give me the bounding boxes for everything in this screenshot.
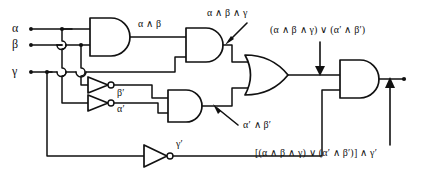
signal-label-not-alpha: α′ <box>117 104 125 114</box>
annotation-arrow-or-output <box>315 42 325 76</box>
wire-beta-to-and-ab <box>57 45 90 50</box>
annotation-label-or-output: (α ∧ β ∧ γ) ∨ (α′ ∧ β′) <box>270 25 365 35</box>
not-gate-beta <box>88 77 114 93</box>
logic-circuit-diagram: α β γ α ∧ β β′ α′ γ′ α ∧ β ∧ γ α′ ∧ β′ (… <box>0 0 423 172</box>
annotation-label-and-abg: α ∧ β ∧ γ <box>207 8 248 18</box>
annotation-arrow-and-abg <box>225 23 247 45</box>
input-label-gamma: γ <box>12 65 18 77</box>
annotation-arrow-and-nanb <box>213 104 238 125</box>
annotation-arrow-final-output <box>385 77 395 145</box>
wire-beta-branch-down <box>81 45 88 85</box>
and-gate-ab <box>90 18 130 56</box>
wire-alpha-branch-down <box>62 29 88 103</box>
signal-label-not-beta: β′ <box>117 88 125 98</box>
annotation-label-final-output: [(α ∧ β ∧ γ) ∨ (α′ ∧ β′)] ∧ γ′ <box>255 148 377 158</box>
signal-label-and-ab: α ∧ β <box>138 19 161 29</box>
signal-label-not-gamma: γ′ <box>176 139 183 149</box>
wire-and-abg-output <box>223 45 248 62</box>
wire-final-output <box>379 77 406 81</box>
wire-gamma-main <box>47 57 186 77</box>
not-gate-gamma <box>144 145 173 167</box>
or-gate <box>245 55 288 95</box>
and-gate-final <box>340 60 379 98</box>
and-gate-abg <box>186 28 223 62</box>
input-label-beta: β <box>12 38 18 50</box>
input-label-alpha: α <box>12 22 19 34</box>
junction-dots <box>45 27 83 74</box>
and-gate-not-a-not-b <box>168 90 202 122</box>
wire-and-nanb-output <box>202 88 248 106</box>
not-gate-alpha <box>88 95 114 111</box>
annotation-label-and-not-a-not-b: α′ ∧ β′ <box>243 120 271 130</box>
